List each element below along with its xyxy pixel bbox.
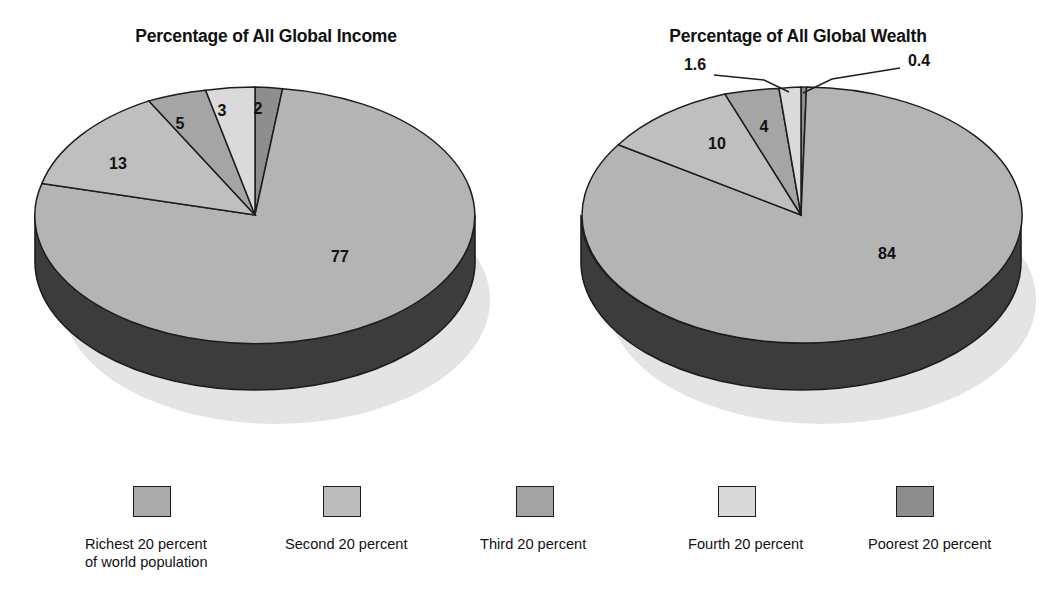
slice-value-fourth: 3	[218, 102, 227, 119]
slice-value-third: 4	[760, 118, 769, 135]
pie-chart-income: 77 13 5 3 2	[0, 0, 532, 480]
legend-item-fourth: Fourth 20 percent	[688, 486, 843, 554]
legend-item-poorest: Poorest 20 percent	[868, 486, 1033, 554]
legend-label-second: Second 20 percent	[285, 536, 450, 554]
legend-item-richest: Richest 20 percent of world population	[85, 486, 270, 571]
slice-value-poorest: 2	[254, 100, 263, 117]
slice-value-fourth: 1.6	[684, 56, 706, 73]
pie-chart-wealth: 84 10 4 1.6 0.4	[532, 0, 1064, 480]
legend-swatch-third	[516, 486, 554, 517]
slice-value-richest: 77	[331, 248, 349, 265]
legend-swatch-second	[323, 486, 361, 517]
slice-value-third: 5	[176, 115, 185, 132]
legend-swatch-poorest	[896, 486, 934, 517]
legend-label-fourth: Fourth 20 percent	[688, 536, 843, 554]
legend-label-third: Third 20 percent	[480, 536, 630, 554]
slice-value-richest: 84	[878, 245, 896, 262]
legend-item-third: Third 20 percent	[480, 486, 630, 554]
slice-value-second: 13	[109, 155, 127, 172]
chart-panel-income: Percentage of All Global Income 77 13 5 …	[0, 0, 532, 480]
legend-swatch-fourth	[718, 486, 756, 517]
legend-item-second: Second 20 percent	[285, 486, 450, 554]
legend-label-richest: Richest 20 percent of world population	[85, 536, 270, 571]
slice-value-second: 10	[708, 135, 726, 152]
chart-legend: Richest 20 percent of world population S…	[0, 486, 1064, 613]
legend-label-poorest: Poorest 20 percent	[868, 536, 1033, 554]
slice-value-poorest: 0.4	[908, 52, 930, 69]
legend-swatch-richest	[133, 486, 171, 517]
chart-panel-wealth: Percentage of All Global Wealth 84 10 4 …	[532, 0, 1064, 480]
